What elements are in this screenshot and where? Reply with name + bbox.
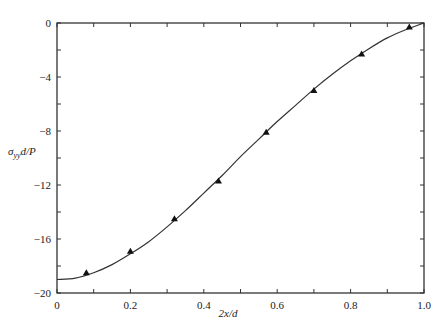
triangle-marker [83, 269, 90, 275]
y-tick-label: −8 [39, 125, 51, 137]
x-tick-label: 0.8 [344, 299, 358, 311]
y-tick-label: −12 [34, 179, 51, 191]
y-tick-label: −16 [34, 233, 52, 245]
y-tick-label: −20 [34, 287, 52, 299]
x-axis-label: 2x/d [219, 307, 238, 319]
x-tick-label: 0.6 [270, 299, 284, 311]
stress-distribution-chart: 00.20.40.60.81.00−4−8−12−16−20 2x/d σyyd… [0, 0, 443, 335]
axis-ticks [57, 23, 424, 293]
triangle-marker [310, 87, 317, 93]
x-tick-label: 0.2 [124, 299, 138, 311]
theory-curve [57, 23, 424, 280]
y-axis-label: σyyd/P [8, 145, 36, 160]
x-tick-label: 0 [54, 299, 60, 311]
x-tick-label: 0.4 [197, 299, 211, 311]
y-tick-label: −4 [39, 71, 51, 83]
x-tick-label: 1.0 [417, 299, 431, 311]
plot-frame [57, 23, 424, 293]
triangle-marker [127, 248, 134, 254]
triangle-marker [406, 24, 413, 30]
y-tick-label: 0 [46, 17, 52, 29]
triangle-marker [215, 177, 222, 183]
